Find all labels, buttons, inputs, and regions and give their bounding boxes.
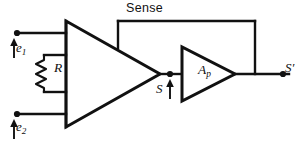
- circuit-schematic-svg: [0, 0, 303, 145]
- sense-label: Sense: [126, 2, 163, 15]
- circuit-diagram: Sense e1 e2 R S Ap S′: [0, 0, 303, 145]
- resistor-label: R: [54, 61, 62, 75]
- input-2-label: e2: [16, 120, 26, 136]
- differential-amplifier-triangle: [66, 21, 160, 127]
- signal-label: S: [156, 82, 163, 95]
- power-amplifier-label: Ap: [198, 63, 211, 79]
- output-prime: ′: [292, 60, 295, 75]
- power-amplifier-subscript: p: [206, 69, 211, 79]
- input-2-subscript: 2: [22, 126, 27, 136]
- input-terminal-1-dot: [14, 30, 20, 36]
- output-label: S′: [285, 61, 294, 74]
- input-1-subscript: 1: [22, 47, 27, 57]
- power-amplifier-base: A: [198, 62, 206, 77]
- input-terminal-2-dot: [14, 111, 20, 117]
- s-arrow-head: [166, 79, 174, 87]
- resistor-zigzag: [36, 55, 46, 92]
- input-1-label: e1: [16, 41, 26, 57]
- signal-node-dot: [167, 71, 173, 77]
